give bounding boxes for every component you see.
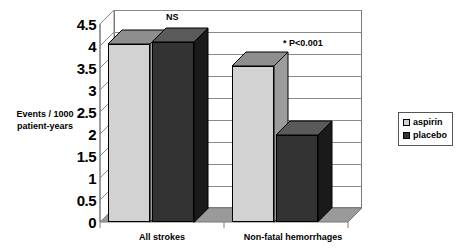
bar-non-fatal-hemorrhages-placebo[interactable] [276, 135, 318, 222]
y-tick-label: 4 [56, 39, 96, 54]
y-tick-label: 0 [56, 215, 96, 230]
y-tick-label: 4.5 [56, 17, 96, 32]
bar-front-face [276, 135, 318, 222]
legend-item-label: placebo [413, 131, 447, 140]
bar-front-face [232, 66, 274, 222]
bar-all-strokes-aspirin[interactable] [108, 44, 150, 222]
y-tick-label: 2 [56, 127, 96, 142]
bar-non-fatal-hemorrhages-aspirin[interactable] [232, 66, 274, 222]
bar-all-strokes-placebo[interactable] [152, 42, 194, 222]
x-axis-label-all-strokes: All strokes [100, 232, 224, 242]
legend-swatch-icon [403, 132, 410, 139]
legend-item-placebo[interactable]: placebo [403, 129, 447, 142]
legend: aspirinplacebo [398, 112, 453, 146]
bar-front-face [108, 44, 150, 222]
plot-area: NS * P<0.001 [100, 10, 362, 222]
y-axis-tick-labels: 4.543.532.521.510.50 [56, 10, 96, 222]
legend-swatch-icon [403, 119, 410, 126]
x-axis-label-non-fatal-hemorrhages: Non-fatal hemorrhages [224, 232, 362, 242]
y-tick-label: 1.5 [56, 149, 96, 164]
y-tick-label: 2.5 [56, 105, 96, 120]
annotation-ns: NS [166, 12, 179, 22]
legend-item-label: aspirin [413, 118, 443, 127]
annotation-pvalue: * P<0.001 [283, 38, 323, 48]
y-tick-label: 0.5 [56, 193, 96, 208]
y-tick-label: 3.5 [56, 61, 96, 76]
bar-front-face [152, 42, 194, 222]
y-tick-label: 1 [56, 171, 96, 186]
legend-item-aspirin[interactable]: aspirin [403, 116, 447, 129]
y-tick-label: 3 [56, 83, 96, 98]
